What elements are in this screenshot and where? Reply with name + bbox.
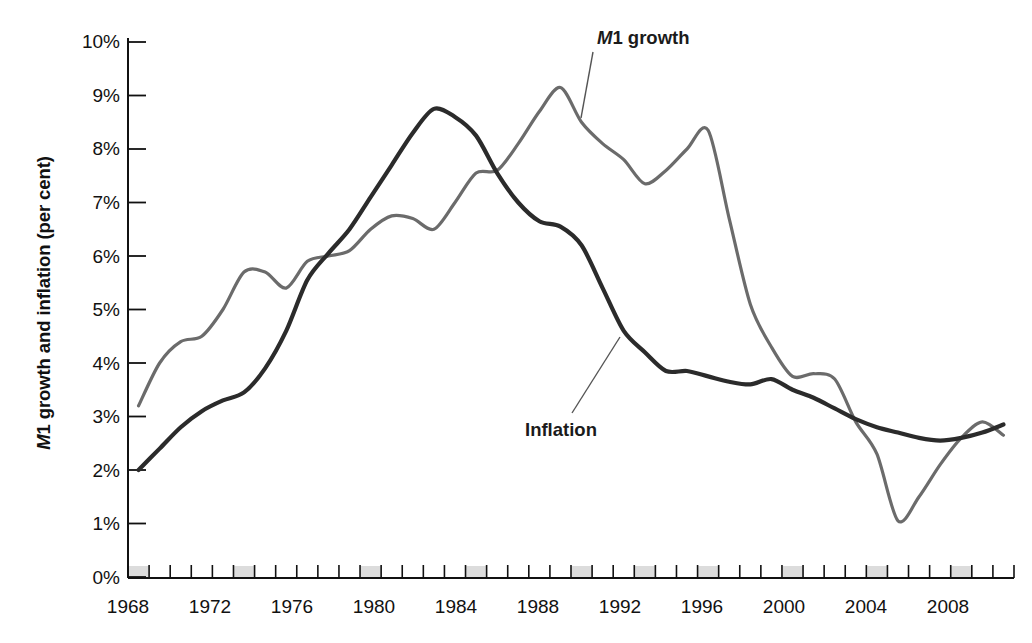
chart-plot-area [0, 0, 1032, 643]
recession-band [951, 566, 972, 578]
series-line-inflation [139, 108, 1004, 470]
recession-band [233, 566, 254, 578]
recession-band [698, 566, 719, 578]
recession-band [782, 566, 803, 578]
recession-band [571, 566, 592, 578]
series-group [139, 87, 1004, 522]
recession-band [360, 566, 381, 578]
series-line-m1-growth [139, 87, 1004, 522]
recession-band [466, 566, 487, 578]
recession-band [634, 566, 655, 578]
inflation-leader-line [572, 337, 620, 413]
m1-growth-leader-line [581, 52, 593, 118]
y-ticks-group [128, 42, 146, 577]
axis-lines-group [128, 38, 1014, 578]
annotation-leader-lines [572, 52, 620, 413]
chart-figure: M1 growth and inflation (per cent) 10% 9… [0, 0, 1032, 643]
recession-band [866, 566, 887, 578]
